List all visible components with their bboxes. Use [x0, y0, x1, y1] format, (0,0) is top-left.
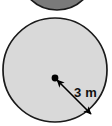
center-point-dot: [52, 75, 59, 82]
diagram-canvas: 3 m: [0, 0, 112, 126]
circle-radius-diagram: 3 m: [0, 0, 112, 126]
main-circle-group: [3, 18, 107, 122]
radius-label: 3 m: [74, 85, 97, 100]
main-circle: [3, 18, 107, 122]
